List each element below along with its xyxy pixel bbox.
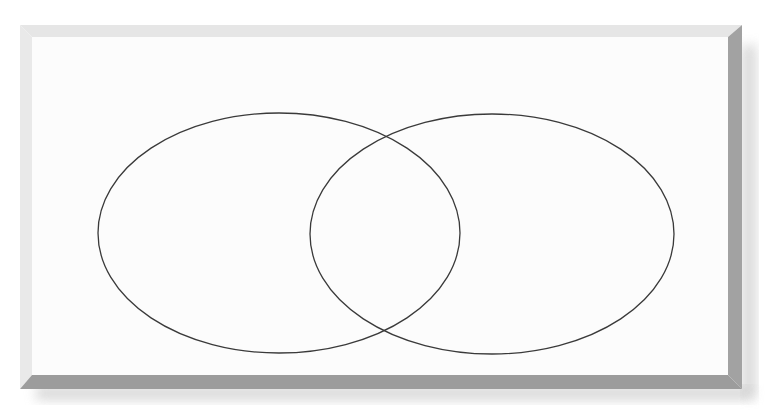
frame-shadow-right: [742, 45, 756, 397]
frame-bevel-top: [20, 25, 742, 37]
venn-diagram-canvas: [0, 0, 776, 415]
venn-diagram-svg: [0, 0, 776, 415]
frame-face: [32, 37, 728, 375]
frame-bevel-right: [728, 25, 742, 389]
frame-bevel-bottom: [20, 375, 742, 389]
frame-bevel-left: [20, 25, 32, 389]
